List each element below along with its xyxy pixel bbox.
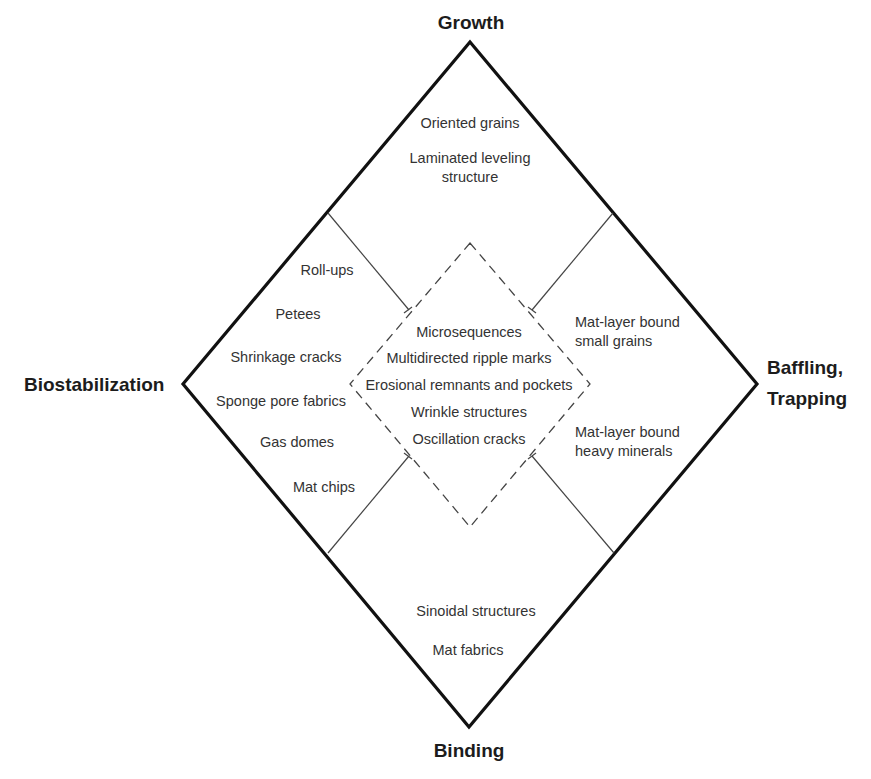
biostabilization-item: Shrinkage cracks xyxy=(230,349,341,366)
growth-item: Oriented grains xyxy=(420,115,519,132)
divider-lower-right xyxy=(532,456,614,553)
baffling-item: Mat-layer bound xyxy=(575,424,680,441)
growth-item: Laminated leveling xyxy=(410,150,531,167)
baffling-item: Mat-layer bound xyxy=(575,314,680,331)
divider-upper-right xyxy=(532,213,613,310)
binding-item: Mat fabrics xyxy=(433,642,504,659)
divider-lower-left xyxy=(328,456,409,553)
growth-item: structure xyxy=(442,169,498,186)
center-item: Multidirected ripple marks xyxy=(386,350,551,367)
pole-binding: Binding xyxy=(434,739,505,762)
center-item: Oscillation cracks xyxy=(413,431,526,448)
center-item: Microsequences xyxy=(416,324,522,341)
biostabilization-item: Gas domes xyxy=(260,434,334,451)
center-item: Wrinkle structures xyxy=(411,404,527,421)
biostabilization-item: Roll-ups xyxy=(300,262,353,279)
biostabilization-item: Mat chips xyxy=(293,479,355,496)
center-item: Erosional remnants and pockets xyxy=(365,377,572,394)
biostabilization-item: Petees xyxy=(275,306,320,323)
baffling-item: heavy minerals xyxy=(575,443,673,460)
pole-growth: Growth xyxy=(438,11,505,34)
binding-item: Sinoidal structures xyxy=(416,603,535,620)
pole-trapping: Trapping xyxy=(767,387,847,410)
biostabilization-item: Sponge pore fabrics xyxy=(216,393,346,410)
pole-biostabilization: Biostabilization xyxy=(24,373,164,396)
pole-baffling: Baffling, xyxy=(767,356,843,379)
baffling-item: small grains xyxy=(575,333,652,350)
